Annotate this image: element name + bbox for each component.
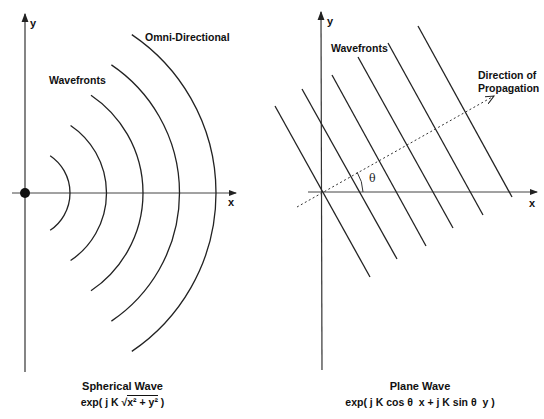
spherical-x-label: x	[228, 196, 235, 208]
plane-x-label: x	[529, 197, 536, 209]
plane-panel: y x θ Wavefronts Direction of Propagatio…	[275, 12, 539, 370]
plane-wavefronts-label: Wavefronts	[331, 42, 388, 54]
plane-wavefront-line	[332, 75, 426, 246]
spherical-caption-title: Spherical Wave	[60, 378, 185, 394]
plane-wavefront-line	[358, 57, 453, 228]
wave-diagram: y x Wavefronts Omni-Directional y x θ Wa…	[0, 0, 544, 419]
omni-directional-label: Omni-Directional	[145, 31, 230, 43]
theta-label: θ	[369, 172, 376, 185]
spherical-caption: Spherical Wave exp( j K √x² + y² )	[60, 378, 185, 410]
direction-label-line1: Direction of	[478, 69, 537, 81]
spherical-formula-suffix: )	[158, 396, 164, 408]
spherical-panel: y x Wavefronts Omni-Directional	[12, 14, 236, 372]
plane-caption-formula: exp( j K cos θ x + j K sin θ y )	[340, 394, 500, 410]
plane-wavefront-line	[302, 89, 397, 259]
spherical-wavefronts-label: Wavefronts	[49, 74, 106, 86]
direction-label-line2: Propagation	[478, 82, 539, 94]
spherical-formula-root: x² + y²	[127, 395, 158, 408]
plane-caption-title: Plane Wave	[340, 378, 500, 394]
spherical-caption-formula: exp( j K √x² + y² )	[60, 394, 185, 410]
plane-y-label: y	[327, 15, 334, 27]
spherical-formula-prefix: exp( j K	[81, 396, 122, 408]
spherical-y-label: y	[30, 17, 37, 29]
plane-caption: Plane Wave exp( j K cos θ x + j K sin θ …	[340, 378, 500, 410]
plane-wavefront-line	[418, 26, 512, 197]
plane-wavefronts	[275, 26, 512, 277]
source-dot	[20, 188, 30, 198]
